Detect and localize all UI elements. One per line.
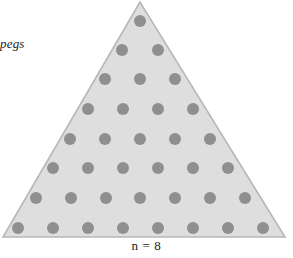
peg-dot — [134, 192, 146, 204]
peg-dot — [152, 222, 164, 234]
peg-dot — [116, 44, 128, 56]
peg-dot — [169, 133, 181, 145]
peg-dot — [30, 192, 42, 204]
peg-dot — [99, 133, 111, 145]
peg-dot — [134, 133, 146, 145]
peg-dot — [204, 192, 216, 204]
figure-caption: n = 8 — [0, 238, 293, 254]
side-axis-label: of pegs — [0, 36, 25, 52]
peg-dot — [257, 222, 269, 234]
peg-dot — [134, 15, 146, 27]
peg-dot — [117, 222, 129, 234]
peg-dot — [82, 222, 94, 234]
peg-dot — [204, 133, 216, 145]
peg-dot — [47, 222, 59, 234]
peg-dot — [12, 222, 24, 234]
peg-dot — [99, 73, 111, 85]
peg-dot — [187, 103, 199, 115]
peg-dot — [152, 103, 164, 115]
peg-dot — [239, 192, 251, 204]
peg-dot — [187, 222, 199, 234]
peg-triangle-figure: of pegs n = 8 — [0, 0, 293, 258]
peg-dot — [117, 162, 129, 174]
peg-dot — [152, 44, 164, 56]
peg-dot — [169, 73, 181, 85]
peg-dot — [222, 222, 234, 234]
peg-dot — [222, 162, 234, 174]
triangle-diagram — [0, 0, 293, 258]
peg-dot — [134, 73, 146, 85]
peg-dot — [152, 162, 164, 174]
peg-dot — [100, 192, 112, 204]
peg-dot — [117, 103, 129, 115]
peg-dot — [64, 133, 76, 145]
peg-dot — [65, 192, 77, 204]
peg-dot — [187, 162, 199, 174]
peg-dot — [82, 162, 94, 174]
peg-dot — [169, 192, 181, 204]
peg-dot — [47, 162, 59, 174]
peg-dot — [82, 103, 94, 115]
